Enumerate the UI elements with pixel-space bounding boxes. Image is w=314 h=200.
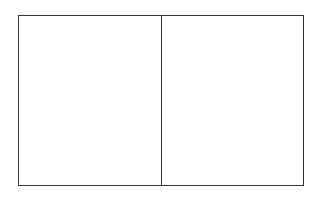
left-panel — [19, 16, 162, 185]
diagram-frame — [18, 15, 304, 186]
right-panel — [162, 16, 303, 185]
